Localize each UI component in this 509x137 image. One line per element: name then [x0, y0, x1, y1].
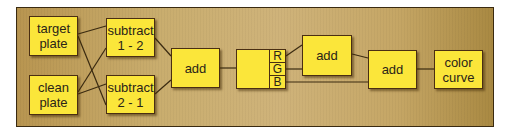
- wire-sub21-to-add1: [155, 80, 171, 94]
- channel-b: B: [270, 75, 285, 88]
- node-rgb-split: R G B: [236, 49, 286, 89]
- node-add-1: add: [171, 48, 220, 88]
- node-color-curve: color curve: [434, 50, 483, 89]
- node-label: add: [185, 61, 207, 76]
- rgb-channel-ports: R G B: [269, 50, 285, 88]
- node-label: color curve: [443, 55, 475, 85]
- wire-r-to-add2: [286, 45, 302, 56]
- channel-r: R: [270, 50, 285, 62]
- node-add-2: add: [302, 35, 352, 76]
- wire-target-to-sub12: [78, 26, 106, 34]
- node-subtract-1-2: subtract 1 - 2: [106, 18, 155, 57]
- node-add-3: add: [368, 50, 417, 89]
- node-label: add: [316, 48, 338, 63]
- node-label: add: [382, 62, 404, 77]
- node-subtract-2-1: subtract 2 - 1: [106, 75, 155, 114]
- wire-sub12-to-add1: [155, 38, 171, 56]
- node-label: subtract 1 - 2: [107, 23, 153, 53]
- node-clean-plate: clean plate: [29, 75, 78, 115]
- node-label: clean plate: [38, 80, 69, 110]
- node-label: subtract 2 - 1: [107, 80, 153, 110]
- node-label: target plate: [37, 21, 70, 51]
- channel-g: G: [270, 62, 285, 75]
- node-target-plate: target plate: [29, 16, 78, 56]
- wire-add2-to-add3: [352, 54, 368, 58]
